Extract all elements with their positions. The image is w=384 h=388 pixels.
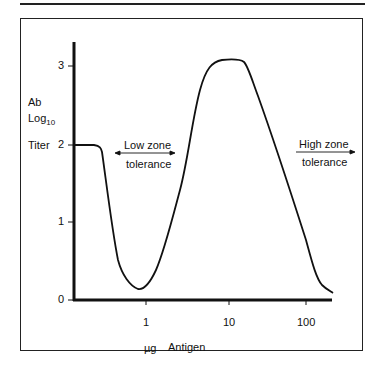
y-label-ab: Ab: [28, 96, 41, 108]
x-tick-1: 1: [143, 316, 149, 328]
antibody-response-curve: [74, 59, 333, 293]
low-zone-label-line1: Low zone: [124, 139, 171, 151]
y-label-log: Log: [28, 112, 46, 124]
x-label-unit: µg: [144, 342, 156, 354]
y-label-log-subscript: 10: [46, 118, 55, 127]
y-label-titer: Titer: [28, 139, 50, 151]
y-label-log10: Log10: [28, 112, 55, 127]
low-zone-label-line2: tolerance: [126, 158, 171, 170]
y-tick-1: 1: [58, 215, 64, 227]
x-tick-10: 10: [223, 316, 235, 328]
x-label-name: Antigen: [168, 341, 205, 353]
high-zone-label-line1: High zone: [299, 138, 349, 150]
high-zone-label-line2: tolerance: [302, 156, 347, 168]
y-tick-2: 2: [58, 138, 64, 150]
y-tick-0: 0: [58, 293, 64, 305]
low-zone-arrow: [115, 151, 175, 155]
y-tick-3: 3: [58, 59, 64, 71]
high-zone-arrow: [296, 150, 355, 154]
x-tick-100: 100: [297, 316, 315, 328]
